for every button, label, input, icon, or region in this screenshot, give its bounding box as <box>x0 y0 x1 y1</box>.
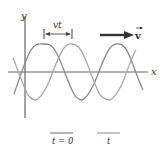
wave-diagram: y x vt v t = 0 t <box>0 0 161 151</box>
velocity-vector-bar-tip <box>140 27 143 30</box>
vt-arrowhead-left <box>45 32 50 36</box>
legend-label-t0: t = 0 <box>52 136 74 146</box>
y-axis-label: y <box>20 10 27 21</box>
velocity-arrowhead <box>124 31 134 39</box>
velocity-label: v <box>134 30 142 41</box>
legend-label-t: t <box>107 136 111 146</box>
vt-label: vt <box>53 20 62 30</box>
x-axis-label: x <box>151 66 157 77</box>
vt-arrowhead-right <box>66 32 71 36</box>
